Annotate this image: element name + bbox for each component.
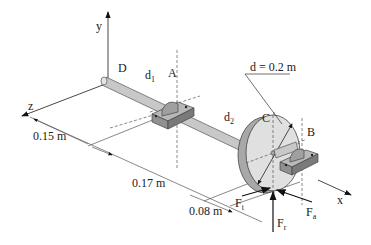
point-c-label: C bbox=[262, 111, 270, 125]
d1-label: d1 bbox=[145, 68, 155, 84]
d2-label: d2 bbox=[224, 110, 234, 126]
dim-ac-label: 0.17 m bbox=[132, 176, 166, 190]
point-d-label: D bbox=[118, 61, 127, 75]
point-b-label: B bbox=[307, 125, 315, 139]
gear-c bbox=[238, 115, 300, 193]
z-axis-label: z bbox=[28, 99, 33, 113]
shaft-diagram: y z x D A C B d1 d2 d = 0.2 m 0.15 m 0.1… bbox=[0, 0, 371, 245]
dim-da-label: 0.15 m bbox=[33, 129, 67, 143]
force-fa-label: Fa bbox=[306, 205, 317, 221]
x-axis-label: x bbox=[337, 193, 343, 207]
point-a-label: A bbox=[168, 66, 177, 80]
y-axis-label: y bbox=[96, 19, 102, 33]
x-axis bbox=[318, 180, 351, 195]
z-axis bbox=[22, 83, 108, 116]
force-fr-label: Fr bbox=[277, 216, 287, 232]
dim-cb-label: 0.08 m bbox=[189, 204, 223, 218]
force-ft-label: Ft bbox=[235, 196, 245, 212]
gear-diameter-label: d = 0.2 m bbox=[250, 60, 297, 74]
